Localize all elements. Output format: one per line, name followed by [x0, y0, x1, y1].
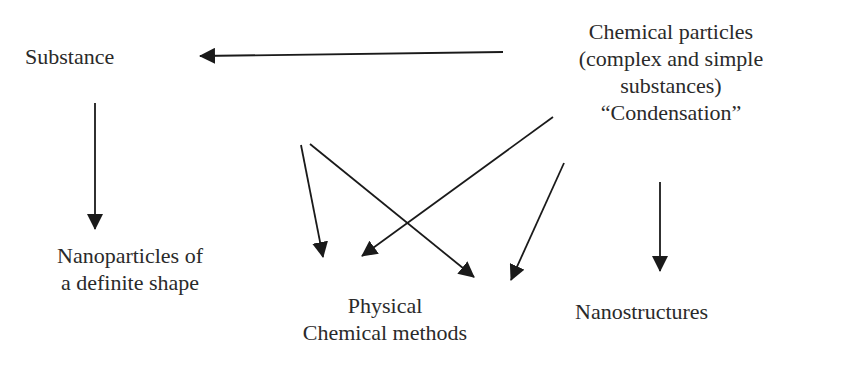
node-chemical-line-2: (complex and simple [576, 45, 766, 72]
node-nanoparticles: Nanoparticles of a definite shape [30, 242, 230, 296]
node-chemical-line-4: “Condensation” [576, 99, 766, 126]
node-nanostructures-line: Nanostructures [575, 298, 708, 325]
node-substance: Substance [25, 43, 114, 70]
arrow-left-to-methods-1 [301, 145, 323, 257]
arrow-chemical-to-methods-1 [362, 117, 553, 256]
arrow-chemical-to-methods-2 [511, 163, 564, 280]
node-chemical-particles: Chemical particles (complex and simple s… [576, 18, 766, 126]
node-chemical-line-3: substances) [576, 72, 766, 99]
node-nanostructures: Nanostructures [575, 298, 708, 325]
node-nanoparticles-line-2: a definite shape [30, 269, 230, 296]
arrow-left-to-methods-2 [310, 144, 474, 277]
node-nanoparticles-line-1: Nanoparticles of [30, 242, 230, 269]
node-methods-line-1: Physical [270, 292, 500, 319]
node-chemical-line-1: Chemical particles [576, 18, 766, 45]
node-substance-line: Substance [25, 43, 114, 70]
arrow-chemical-to-substance [200, 52, 503, 56]
diagram-canvas: Substance Chemical particles (complex an… [0, 0, 855, 367]
node-methods-line-2: Chemical methods [270, 319, 500, 346]
node-methods: Physical Chemical methods [270, 292, 500, 346]
